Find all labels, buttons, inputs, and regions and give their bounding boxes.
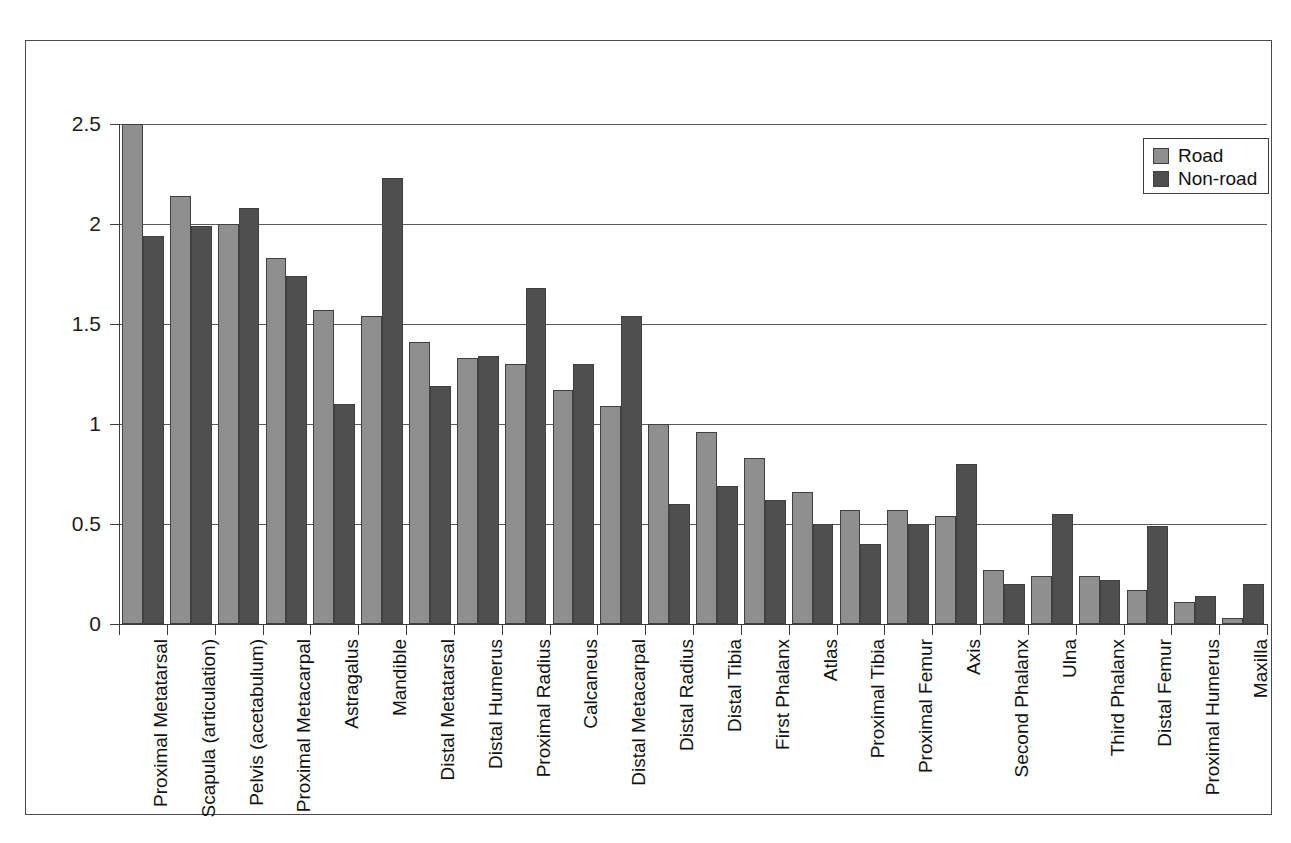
chart-page: Road Non-road 00.511.522.5Proximal Metat… bbox=[0, 0, 1291, 843]
y-axis-tick-mark bbox=[110, 324, 119, 325]
bar-nonroad bbox=[956, 464, 977, 624]
y-axis-tick-label: 0.5 bbox=[72, 512, 101, 536]
bar-nonroad bbox=[382, 178, 403, 624]
x-axis-category-label: Distal Humerus bbox=[485, 639, 507, 769]
x-axis-category-label: Maxilla bbox=[1250, 639, 1272, 698]
y-axis-tick-label: 2.5 bbox=[72, 112, 101, 136]
x-axis-category-label: Distal Metacarpal bbox=[628, 639, 650, 786]
bar-nonroad bbox=[1195, 596, 1216, 624]
bar-road bbox=[505, 364, 526, 624]
bar-nonroad bbox=[1243, 584, 1264, 624]
x-axis-tick-mark bbox=[693, 624, 694, 635]
x-axis-tick-mark bbox=[597, 624, 598, 635]
x-axis-tick-mark bbox=[167, 624, 168, 635]
x-axis-category-label: Atlas bbox=[820, 639, 842, 681]
x-axis-category-label: Second Phalanx bbox=[1011, 639, 1033, 777]
x-axis-tick-mark bbox=[263, 624, 264, 635]
bar-nonroad bbox=[669, 504, 690, 624]
x-axis-category-label: Ulna bbox=[1059, 639, 1081, 678]
x-axis-category-label: Astragalus bbox=[341, 639, 363, 729]
x-axis-category-label: Proximal Humerus bbox=[1202, 639, 1224, 795]
y-axis-line bbox=[119, 124, 120, 624]
y-axis-tick-mark bbox=[110, 124, 119, 125]
bar-road bbox=[553, 390, 574, 624]
x-axis-tick-mark bbox=[358, 624, 359, 635]
x-axis-tick-mark bbox=[837, 624, 838, 635]
bar-road bbox=[361, 316, 382, 624]
bar-road bbox=[1174, 602, 1195, 624]
figure-frame: Road Non-road 00.511.522.5Proximal Metat… bbox=[25, 40, 1272, 815]
bar-road bbox=[744, 458, 765, 624]
x-axis-category-label: Distal Metatarsal bbox=[437, 639, 459, 781]
legend-swatch-nonroad bbox=[1153, 171, 1169, 187]
bar-nonroad bbox=[286, 276, 307, 624]
x-axis-tick-mark bbox=[550, 624, 551, 635]
x-axis-tick-mark bbox=[406, 624, 407, 635]
gridline bbox=[119, 124, 1267, 125]
x-axis-category-label: Proximal Radius bbox=[533, 639, 555, 777]
x-axis-tick-mark bbox=[645, 624, 646, 635]
x-axis-category-label: Axis bbox=[963, 639, 985, 675]
x-axis-category-label: First Phalanx bbox=[772, 639, 794, 750]
y-axis-tick-mark bbox=[110, 224, 119, 225]
plot-area bbox=[119, 124, 1267, 624]
bar-road bbox=[840, 510, 861, 624]
bar-road bbox=[313, 310, 334, 624]
x-axis-category-label: Distal Radius bbox=[676, 639, 698, 751]
bar-road bbox=[170, 196, 191, 624]
x-axis-category-label: Proximal Metatarsal bbox=[150, 639, 172, 807]
bar-road bbox=[648, 424, 669, 624]
x-axis-tick-mark bbox=[454, 624, 455, 635]
bar-road bbox=[457, 358, 478, 624]
legend-item-road: Road bbox=[1153, 144, 1268, 167]
x-axis-tick-mark bbox=[789, 624, 790, 635]
y-axis-tick-label: 1 bbox=[89, 412, 101, 436]
legend-swatch-road bbox=[1153, 148, 1169, 164]
y-axis-tick-label: 2 bbox=[89, 212, 101, 236]
y-axis-tick-mark bbox=[110, 524, 119, 525]
bar-nonroad bbox=[478, 356, 499, 624]
bar-road bbox=[887, 510, 908, 624]
bar-road bbox=[1031, 576, 1052, 624]
bar-nonroad bbox=[1052, 514, 1073, 624]
bar-road bbox=[122, 124, 143, 624]
bar-road bbox=[792, 492, 813, 624]
bar-nonroad bbox=[1147, 526, 1168, 624]
x-axis-category-label: Distal Tibia bbox=[724, 639, 746, 732]
gridline bbox=[119, 224, 1267, 225]
bar-nonroad bbox=[1004, 584, 1025, 624]
x-axis-tick-mark bbox=[884, 624, 885, 635]
x-axis-category-label: Proximal Metacarpal bbox=[293, 639, 315, 812]
bar-road bbox=[935, 516, 956, 624]
bar-nonroad bbox=[430, 386, 451, 624]
bar-nonroad bbox=[1100, 580, 1121, 624]
x-axis-category-label: Distal Femur bbox=[1154, 639, 1176, 747]
bar-nonroad bbox=[860, 544, 881, 624]
x-axis-tick-mark bbox=[1267, 624, 1268, 635]
legend-label-nonroad: Non-road bbox=[1178, 169, 1257, 188]
x-axis-category-label: Pelvis (acetabulum) bbox=[246, 639, 268, 806]
bar-nonroad bbox=[573, 364, 594, 624]
x-axis-tick-mark bbox=[1171, 624, 1172, 635]
bar-nonroad bbox=[191, 226, 212, 624]
bar-road bbox=[696, 432, 717, 624]
y-axis-tick-mark bbox=[110, 624, 119, 625]
x-axis-tick-mark bbox=[741, 624, 742, 635]
x-axis-tick-mark bbox=[1219, 624, 1220, 635]
bar-road bbox=[266, 258, 287, 624]
x-axis-tick-mark bbox=[1028, 624, 1029, 635]
bar-nonroad bbox=[717, 486, 738, 624]
x-axis-category-label: Mandible bbox=[389, 639, 411, 716]
x-axis-category-label: Scapula (articulation) bbox=[198, 639, 220, 817]
bar-nonroad bbox=[334, 404, 355, 624]
x-axis-tick-mark bbox=[980, 624, 981, 635]
x-axis-tick-mark bbox=[932, 624, 933, 635]
bar-nonroad bbox=[765, 500, 786, 624]
bar-nonroad bbox=[908, 524, 929, 624]
bar-nonroad bbox=[239, 208, 260, 624]
bar-road bbox=[600, 406, 621, 624]
bar-road bbox=[409, 342, 430, 624]
bar-nonroad bbox=[621, 316, 642, 624]
y-axis-tick-label: 0 bbox=[89, 612, 101, 636]
x-axis-category-label: Proximal Tibia bbox=[867, 639, 889, 758]
